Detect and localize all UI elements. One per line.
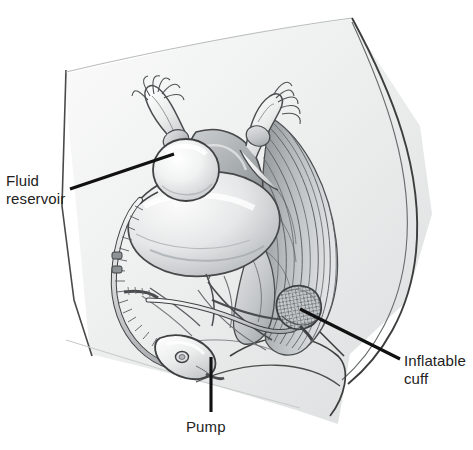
pump-button (176, 352, 189, 363)
pelvic-anatomy-illustration (0, 0, 473, 450)
label-inflatable-cuff: Inflatable cuff (404, 352, 466, 388)
illustration-canvas (0, 0, 473, 450)
label-pump: Pump (186, 418, 226, 436)
label-fluid-reservoir: Fluid reservoir (6, 172, 65, 208)
